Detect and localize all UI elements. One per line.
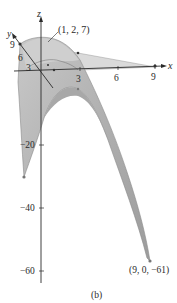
- point-surface: [47, 64, 49, 66]
- point-x9: [153, 64, 156, 67]
- x-tick-3: 3: [76, 74, 81, 84]
- surface-plot: z x y 3 6 9 3 6 9 −20 −40 −60 (1, 2, 7) …: [0, 0, 177, 303]
- point-axis: [53, 69, 55, 71]
- x-axis-arrow-icon: [161, 64, 167, 68]
- point-left-leg: [22, 175, 25, 178]
- x-tick-6: 6: [114, 73, 119, 83]
- surface: [18, 37, 150, 261]
- point-bottom: [148, 259, 151, 262]
- z-tick-neg20: −20: [20, 140, 35, 150]
- y-axis-label: y: [6, 28, 12, 39]
- y-tick-9: 9: [10, 40, 15, 50]
- y-tick-3: 3: [26, 63, 31, 73]
- point-arch: [77, 88, 79, 90]
- point-plane: [77, 52, 80, 55]
- z-axis-label: z: [36, 8, 41, 19]
- y-axis-arrow-icon: [12, 33, 17, 39]
- figure-caption: (b): [91, 290, 102, 301]
- x-tick-9: 9: [151, 72, 156, 82]
- x-axis-label: x: [167, 60, 173, 71]
- bottom-point-label: (9, 0, −61): [129, 265, 169, 276]
- top-point-label: (1, 2, 7): [58, 24, 90, 36]
- z-tick-neg60: −60: [20, 266, 35, 276]
- z-tick-neg40: −40: [20, 203, 35, 213]
- point-y9: [18, 42, 21, 45]
- y-tick-6: 6: [18, 53, 23, 63]
